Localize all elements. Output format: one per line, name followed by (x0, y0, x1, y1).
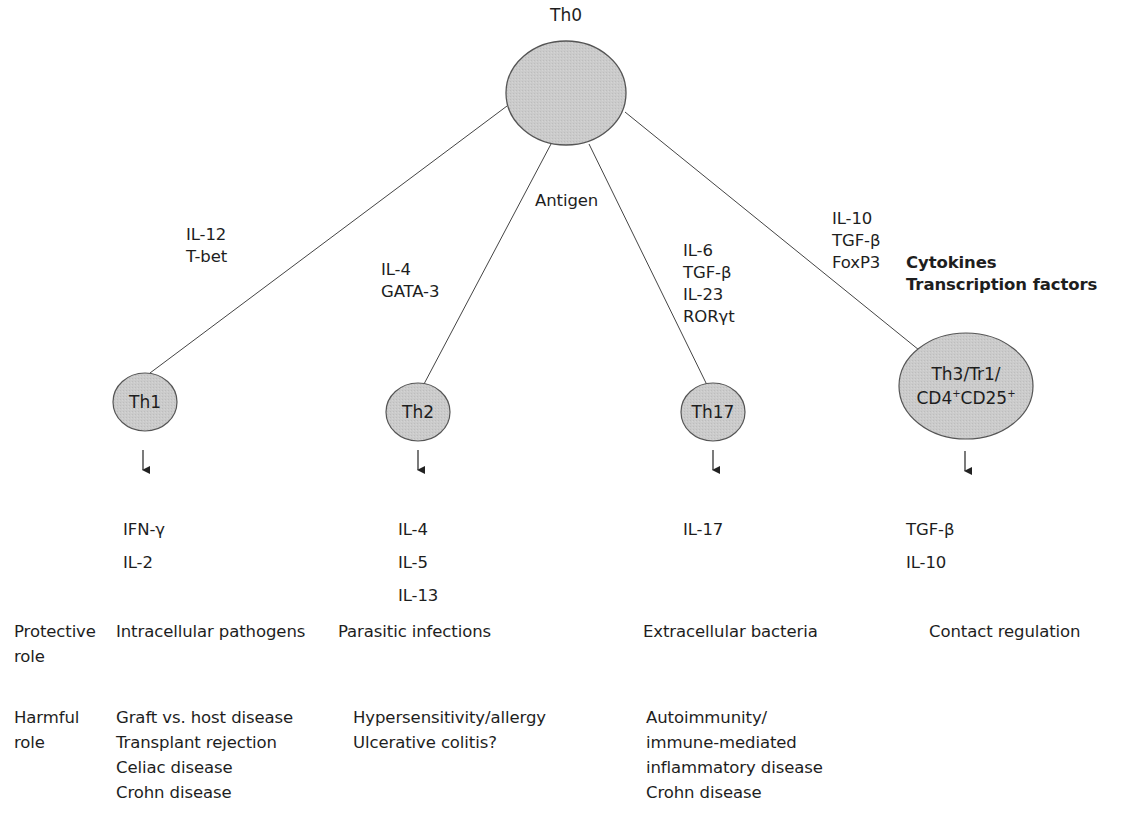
harmful-item: Graft vs. host disease (116, 705, 293, 730)
harmful-item: Crohn disease (116, 780, 293, 805)
harmful-item: Transplant rejection (116, 730, 293, 755)
harmful-item: Hypersensitivity/allergy (353, 705, 546, 730)
harmful-th1: Graft vs. host disease Transplant reject… (116, 705, 293, 805)
node-label-th2: Th2 (386, 401, 450, 423)
harmful-th2: Hypersensitivity/allergy Ulcerative coli… (353, 705, 546, 755)
drivers-th17: IL-6 TGF-β IL-23 RORγt (683, 240, 735, 328)
driver-item: TGF-β (832, 230, 880, 252)
driver-item: T-bet (186, 246, 227, 268)
harmful-item: Autoimmunity/ (646, 705, 823, 730)
legend-transcription-factors: Transcription factors (906, 274, 1097, 296)
harmful-item: inflammatory disease (646, 755, 823, 780)
driver-item: GATA-3 (381, 281, 439, 303)
root-label: Th0 (536, 4, 596, 26)
node-label-th17: Th17 (681, 401, 745, 423)
driver-item: IL-6 (683, 240, 735, 262)
products-th2: IL-4 IL-5 IL-13 (398, 513, 438, 612)
driver-item: RORγt (683, 306, 735, 328)
products-th3: TGF-β IL-10 (906, 513, 954, 579)
protective-th1: Intracellular pathogens (116, 619, 305, 644)
node-th0 (506, 41, 626, 145)
node-label-th3-line2: CD4+CD25+ (899, 386, 1033, 410)
connector-th2 (424, 144, 551, 384)
product-item: IL-5 (398, 546, 438, 579)
driver-item: IL-23 (683, 284, 735, 306)
protective-th17: Extracellular bacteria (643, 619, 818, 644)
harmful-th17: Autoimmunity/ immune-mediated inflammato… (646, 705, 823, 805)
node-label-th3-line1: Th3/Tr1/ (899, 362, 1033, 386)
harmful-item: Celiac disease (116, 755, 293, 780)
node-label-th3: Th3/Tr1/ CD4+CD25+ (899, 362, 1033, 410)
driver-item: IL-4 (381, 259, 439, 281)
products-th17: IL-17 (683, 513, 723, 546)
product-item: IFN-γ (123, 513, 165, 546)
legend-cytokines: Cytokines (906, 252, 1097, 274)
node-label-th1: Th1 (113, 391, 177, 413)
product-item: IL-10 (906, 546, 954, 579)
protective-th2: Parasitic infections (338, 619, 491, 644)
products-th1: IFN-γ IL-2 (123, 513, 165, 579)
driver-item: IL-10 (832, 208, 880, 230)
driver-item: IL-12 (186, 224, 227, 246)
driver-item: FoxP3 (832, 252, 880, 274)
harmful-item: Ulcerative colitis? (353, 730, 546, 755)
row-label-protective: Protective role (14, 619, 96, 669)
product-item: IL-4 (398, 513, 438, 546)
legend: Cytokines Transcription factors (906, 252, 1097, 296)
drivers-th2: IL-4 GATA-3 (381, 259, 439, 303)
row-label-harmful: Harmful role (14, 705, 79, 755)
harmful-item: Crohn disease (646, 780, 823, 805)
driver-item: TGF-β (683, 262, 735, 284)
harmful-item: immune-mediated (646, 730, 823, 755)
product-item: TGF-β (906, 513, 954, 546)
product-item: IL-2 (123, 546, 165, 579)
antigen-label: Antigen (535, 190, 598, 212)
product-item: IL-13 (398, 579, 438, 612)
product-item: IL-17 (683, 513, 723, 546)
drivers-th3: IL-10 TGF-β FoxP3 (832, 208, 880, 274)
protective-th3: Contact regulation (929, 619, 1080, 644)
drivers-th1: IL-12 T-bet (186, 224, 227, 268)
